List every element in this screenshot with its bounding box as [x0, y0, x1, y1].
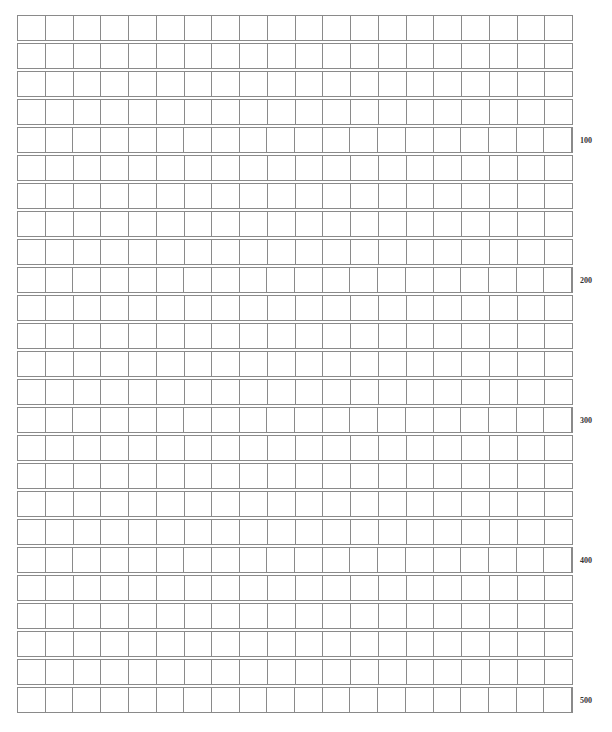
grid-cell[interactable]	[490, 240, 518, 264]
grid-cell[interactable]	[545, 72, 572, 96]
grid-cell[interactable]	[461, 688, 489, 712]
grid-cell[interactable]	[212, 408, 240, 432]
grid-cell[interactable]	[407, 324, 435, 348]
grid-cell[interactable]	[461, 268, 489, 292]
grid-cell[interactable]	[185, 576, 213, 600]
grid-cell[interactable]	[462, 464, 490, 488]
grid-cell[interactable]	[46, 436, 74, 460]
grid-cell[interactable]	[129, 44, 157, 68]
grid-cell[interactable]	[434, 492, 462, 516]
grid-cell[interactable]	[296, 324, 324, 348]
grid-cell[interactable]	[101, 380, 129, 404]
grid-cell[interactable]	[18, 44, 46, 68]
grid-cell[interactable]	[462, 352, 490, 376]
grid-cell[interactable]	[323, 688, 351, 712]
grid-cell[interactable]	[434, 548, 462, 572]
grid-cell[interactable]	[545, 604, 572, 628]
grid-cell[interactable]	[185, 184, 213, 208]
grid-cell[interactable]	[545, 632, 572, 656]
grid-cell[interactable]	[184, 408, 212, 432]
grid-cell[interactable]	[407, 604, 435, 628]
grid-cell[interactable]	[157, 240, 185, 264]
grid-cell[interactable]	[351, 464, 379, 488]
grid-cell[interactable]	[489, 408, 517, 432]
grid-cell[interactable]	[407, 632, 435, 656]
grid-cell[interactable]	[351, 380, 379, 404]
grid-cell[interactable]	[545, 184, 572, 208]
grid-cell[interactable]	[517, 128, 545, 152]
grid-cell[interactable]	[545, 380, 572, 404]
grid-cell[interactable]	[295, 548, 323, 572]
grid-cell[interactable]	[18, 128, 46, 152]
grid-cell[interactable]	[434, 156, 462, 180]
grid-cell[interactable]	[351, 156, 379, 180]
grid-cell[interactable]	[295, 268, 323, 292]
grid-cell[interactable]	[379, 184, 407, 208]
grid-cell[interactable]	[545, 156, 572, 180]
grid-cell[interactable]	[434, 240, 462, 264]
grid-cell[interactable]	[184, 548, 212, 572]
grid-cell[interactable]	[462, 184, 490, 208]
grid-cell[interactable]	[434, 268, 462, 292]
grid-cell[interactable]	[129, 156, 157, 180]
grid-cell[interactable]	[296, 352, 324, 376]
grid-cell[interactable]	[157, 436, 185, 460]
grid-cell[interactable]	[212, 268, 240, 292]
grid-cell[interactable]	[379, 604, 407, 628]
grid-cell[interactable]	[185, 240, 213, 264]
grid-cell[interactable]	[518, 44, 546, 68]
grid-cell[interactable]	[18, 240, 46, 264]
grid-cell[interactable]	[212, 604, 240, 628]
grid-cell[interactable]	[434, 16, 462, 40]
grid-cell[interactable]	[74, 520, 102, 544]
grid-cell[interactable]	[323, 100, 351, 124]
grid-cell[interactable]	[379, 520, 407, 544]
grid-cell[interactable]	[18, 324, 46, 348]
grid-cell[interactable]	[406, 408, 434, 432]
grid-cell[interactable]	[212, 296, 240, 320]
grid-cell[interactable]	[18, 380, 46, 404]
grid-cell[interactable]	[490, 324, 518, 348]
grid-cell[interactable]	[296, 44, 324, 68]
grid-cell[interactable]	[240, 156, 268, 180]
grid-cell[interactable]	[518, 156, 546, 180]
grid-cell[interactable]	[157, 16, 185, 40]
grid-cell[interactable]	[379, 240, 407, 264]
grid-cell[interactable]	[46, 44, 74, 68]
grid-cell[interactable]	[434, 324, 462, 348]
grid-cell[interactable]	[544, 268, 572, 292]
grid-cell[interactable]	[157, 324, 185, 348]
grid-cell[interactable]	[101, 128, 129, 152]
grid-cell[interactable]	[379, 436, 407, 460]
grid-cell[interactable]	[407, 72, 435, 96]
grid-cell[interactable]	[185, 352, 213, 376]
grid-cell[interactable]	[46, 464, 74, 488]
grid-cell[interactable]	[268, 16, 296, 40]
grid-cell[interactable]	[517, 268, 545, 292]
grid-cell[interactable]	[351, 576, 379, 600]
grid-cell[interactable]	[46, 548, 74, 572]
grid-cell[interactable]	[406, 128, 434, 152]
grid-cell[interactable]	[74, 352, 102, 376]
grid-cell[interactable]	[544, 128, 572, 152]
grid-cell[interactable]	[462, 632, 490, 656]
grid-cell[interactable]	[351, 72, 379, 96]
grid-cell[interactable]	[351, 632, 379, 656]
grid-cell[interactable]	[518, 16, 546, 40]
grid-cell[interactable]	[184, 688, 212, 712]
grid-cell[interactable]	[157, 184, 185, 208]
grid-cell[interactable]	[212, 492, 240, 516]
grid-cell[interactable]	[212, 324, 240, 348]
grid-cell[interactable]	[518, 464, 546, 488]
grid-cell[interactable]	[240, 576, 268, 600]
grid-cell[interactable]	[157, 44, 185, 68]
grid-cell[interactable]	[462, 436, 490, 460]
grid-cell[interactable]	[406, 548, 434, 572]
grid-cell[interactable]	[185, 324, 213, 348]
grid-cell[interactable]	[101, 184, 129, 208]
grid-cell[interactable]	[462, 660, 490, 684]
grid-cell[interactable]	[157, 156, 185, 180]
grid-cell[interactable]	[240, 520, 268, 544]
grid-cell[interactable]	[518, 520, 546, 544]
grid-cell[interactable]	[323, 632, 351, 656]
